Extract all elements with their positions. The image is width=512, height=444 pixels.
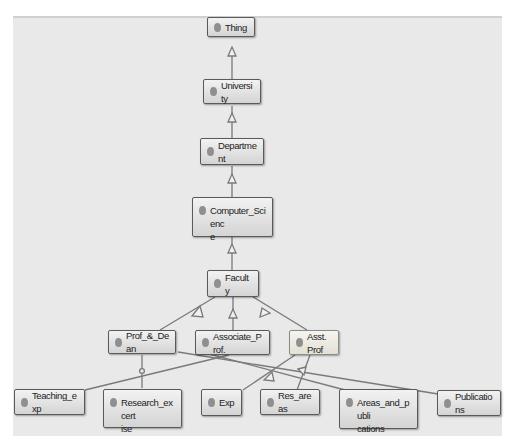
node-label: Prof_&_Dean	[126, 329, 169, 355]
class-icon	[267, 398, 274, 407]
node-label: Thing	[225, 21, 247, 34]
node-asst-prof[interactable]: Asst.Prof	[289, 330, 339, 355]
class-icon	[214, 23, 221, 32]
node-label: Department	[218, 139, 257, 165]
node-label: Publications	[455, 390, 494, 416]
class-icon	[202, 338, 209, 347]
node-exp[interactable]: Exp	[201, 389, 242, 416]
class-icon	[214, 279, 221, 288]
node-faculty[interactable]: Faculty	[207, 270, 259, 297]
node-areas-and-publications[interactable]: Areas_and_publi cations	[339, 389, 418, 429]
class-icon	[210, 87, 217, 96]
node-computer-science[interactable]: Computer_Scienc e	[192, 197, 273, 237]
node-label: Asst.Prof	[307, 330, 332, 356]
class-icon	[208, 398, 215, 407]
node-department[interactable]: Department	[200, 138, 264, 165]
class-icon	[21, 398, 28, 407]
node-label: Areas_and_publi cations	[357, 396, 411, 435]
node-label: Res_areas	[278, 389, 313, 415]
node-res-areas[interactable]: Res_areas	[260, 389, 320, 415]
node-teaching-exp[interactable]: Teaching_exp	[14, 389, 85, 415]
class-icon	[207, 147, 214, 156]
class-icon	[199, 206, 206, 215]
node-label: Exp	[219, 396, 234, 409]
node-label: Associate_Prof.	[213, 330, 263, 356]
node-publications[interactable]: Publications	[437, 390, 501, 416]
class-icon	[115, 338, 122, 347]
node-label: Teaching_exp	[32, 389, 78, 415]
node-associate-prof[interactable]: Associate_Prof.	[195, 330, 270, 355]
node-label: Faculty	[225, 271, 252, 297]
node-research-expertise[interactable]: Research_excert ise	[103, 389, 182, 428]
node-label: University	[221, 79, 254, 105]
node-prof-dean[interactable]: Prof_&_Dean	[108, 330, 176, 354]
node-thing[interactable]: Thing	[207, 17, 255, 37]
node-label: Computer_Scienc e	[210, 204, 266, 243]
node-label: Research_excert ise	[121, 396, 175, 435]
class-icon	[444, 399, 451, 408]
class-icon	[296, 338, 303, 347]
node-university[interactable]: University	[203, 79, 261, 104]
class-icon	[346, 398, 353, 407]
class-icon	[110, 398, 117, 407]
